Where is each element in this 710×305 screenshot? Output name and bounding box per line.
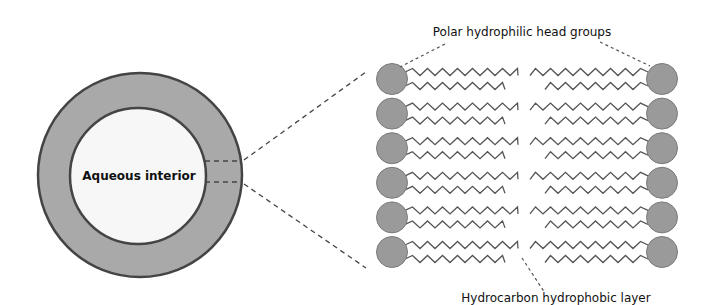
diagram-canvas: Aqueous interior Polar hydrophilic head … bbox=[0, 0, 710, 305]
hydrocarbon-tail bbox=[405, 83, 505, 90]
hydrocarbon-tail bbox=[545, 221, 648, 228]
hydrocarbon-tail bbox=[405, 152, 505, 159]
head-pointer-left bbox=[400, 44, 445, 67]
polar-head-group bbox=[377, 64, 408, 95]
polar-head-group bbox=[377, 133, 408, 164]
polar-head-group bbox=[647, 202, 678, 233]
polar-head-group bbox=[377, 98, 408, 129]
polar-head-group bbox=[647, 237, 678, 268]
hydrocarbon-tail bbox=[530, 242, 648, 249]
tail-pointer bbox=[522, 258, 545, 293]
hydrocarbon-tail bbox=[405, 221, 505, 228]
hydrocarbon-tail bbox=[530, 103, 648, 110]
hydrocarbon-tail bbox=[405, 242, 518, 249]
hydrocarbon-tail bbox=[405, 207, 518, 214]
hydrocarbon-tail bbox=[405, 69, 518, 76]
connector-top bbox=[244, 72, 366, 160]
hydrocarbon-tail bbox=[545, 256, 648, 263]
hydrocarbon-tail bbox=[545, 83, 648, 90]
hydrocarbon-tail bbox=[405, 172, 518, 179]
hydrocarbon-tail bbox=[405, 186, 505, 193]
polar-head-group bbox=[377, 167, 408, 198]
hydrocarbon-tail bbox=[405, 138, 518, 145]
head-groups-label: Polar hydrophilic head groups bbox=[433, 25, 611, 39]
label-pointers bbox=[400, 42, 650, 293]
hydrocarbon-tail bbox=[530, 207, 648, 214]
polar-head-group bbox=[647, 64, 678, 95]
hydrophobic-layer-label: Hydrocarbon hydrophobic layer bbox=[461, 291, 650, 305]
polar-head-group bbox=[377, 237, 408, 268]
polar-head-group bbox=[647, 98, 678, 129]
hydrocarbon-tail bbox=[545, 186, 648, 193]
polar-head-group bbox=[647, 133, 678, 164]
aqueous-interior-label: Aqueous interior bbox=[82, 169, 195, 183]
hydrocarbon-tail bbox=[405, 256, 505, 263]
hydrocarbon-tail bbox=[545, 117, 648, 124]
hydrocarbon-tail bbox=[405, 103, 518, 110]
polar-head-group bbox=[377, 202, 408, 233]
lipid-bilayer bbox=[377, 64, 678, 268]
hydrocarbon-tail bbox=[545, 152, 648, 159]
hydrocarbon-tail bbox=[530, 138, 648, 145]
hydrocarbon-tail bbox=[405, 117, 505, 124]
hydrocarbon-tail bbox=[530, 69, 648, 76]
connector-bottom bbox=[244, 184, 366, 268]
polar-head-group bbox=[647, 167, 678, 198]
head-pointer-right bbox=[600, 42, 650, 66]
hydrocarbon-tail bbox=[530, 172, 648, 179]
vesicle: Aqueous interior bbox=[38, 73, 242, 277]
